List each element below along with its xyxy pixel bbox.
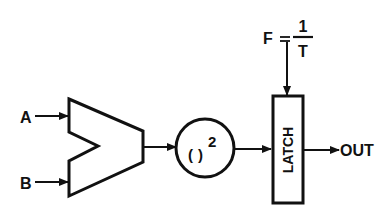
- clock-numerator: 1: [299, 18, 308, 35]
- latch-label: LATCH: [280, 127, 296, 173]
- input-label-a: A: [20, 109, 32, 126]
- output-label: OUT: [340, 142, 374, 159]
- squarer-paren-open: (: [188, 146, 193, 163]
- subtractor-block: [69, 99, 143, 196]
- squarer-exponent: 2: [208, 133, 216, 150]
- input-label-b: B: [20, 175, 32, 192]
- clock-label-f: F: [263, 30, 273, 47]
- block-diagram: A B ( ) 2 LATCH F 1 T OUT: [0, 0, 392, 221]
- clock-denominator: T: [298, 43, 308, 60]
- squarer-paren-close: ): [198, 146, 203, 163]
- squarer-block: [176, 119, 234, 177]
